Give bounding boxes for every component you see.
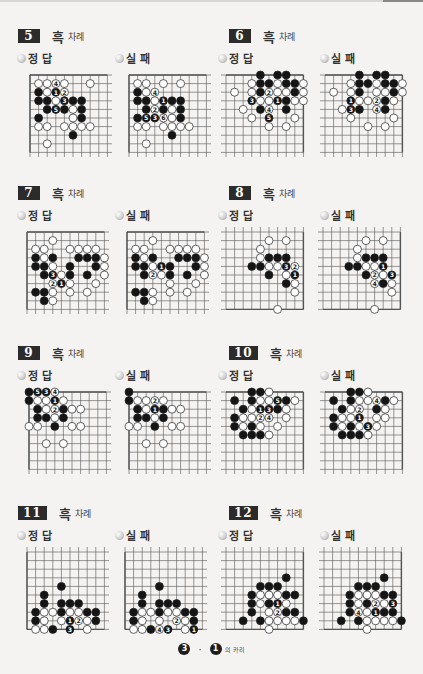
black-stone xyxy=(83,254,91,262)
white-stone xyxy=(373,88,381,96)
black-stone xyxy=(355,71,363,79)
black-stone: 3 xyxy=(151,114,159,122)
black-stone xyxy=(166,271,174,279)
white-stone xyxy=(134,80,142,88)
black-stone xyxy=(147,625,155,633)
correct-label: 정 답 xyxy=(218,207,253,223)
problem-6: 6 흑 차례 정 답 실 패 23145 1234 xyxy=(211,28,416,178)
white-stone xyxy=(83,625,91,633)
failure-label: 실 패 xyxy=(115,207,150,223)
svg-text:2: 2 xyxy=(76,617,80,624)
bullet-icon xyxy=(17,211,26,220)
white-stone xyxy=(140,254,148,262)
svg-text:3: 3 xyxy=(390,271,394,278)
black-stone xyxy=(346,591,354,599)
problem-header: 10 흑 차례 xyxy=(229,345,302,361)
svg-text:1: 1 xyxy=(349,97,353,104)
black-stone: 3 xyxy=(389,600,397,608)
black-stone xyxy=(239,431,247,439)
white-stone xyxy=(49,608,57,616)
svg-text:6: 6 xyxy=(161,114,165,121)
black-stone xyxy=(291,608,299,616)
svg-text:1: 1 xyxy=(68,617,72,624)
white-stone xyxy=(149,262,157,270)
black-stone xyxy=(132,262,140,270)
problem-header: 12 흑 차례 xyxy=(229,505,302,521)
black-stone xyxy=(140,297,148,305)
go-board-failure: 21 xyxy=(124,387,211,474)
failure-label: 실 패 xyxy=(320,50,355,66)
black-stone-icon: 3 xyxy=(178,643,190,655)
black-stone xyxy=(83,271,91,279)
white-stone xyxy=(389,617,397,625)
white-stone xyxy=(362,262,370,270)
white-stone: 4 xyxy=(354,608,362,616)
black-stone xyxy=(42,414,50,422)
white-stone xyxy=(373,414,381,422)
white-stone: 2 xyxy=(372,600,380,608)
white-stone xyxy=(177,405,185,413)
black-stone xyxy=(49,625,57,633)
white-stone xyxy=(371,305,379,313)
white-stone xyxy=(248,414,256,422)
white-stone xyxy=(175,245,183,253)
svg-text:1: 1 xyxy=(357,414,361,421)
white-stone xyxy=(248,80,256,88)
black-stone xyxy=(389,608,397,616)
black-stone xyxy=(183,271,191,279)
turn-label-sub: 차례 xyxy=(68,347,84,360)
go-board-correct: 321 xyxy=(221,227,308,314)
black-stone xyxy=(25,397,33,405)
white-stone: 2 xyxy=(151,397,159,405)
black-stone xyxy=(192,254,200,262)
problem-9: 9 흑 차례 정 답 실 패 53412 21 xyxy=(0,345,205,495)
white-stone xyxy=(265,262,273,270)
white-stone xyxy=(265,123,273,131)
white-stone xyxy=(372,591,380,599)
white-stone xyxy=(282,414,290,422)
page-top-rule-accent xyxy=(383,0,423,2)
black-stone xyxy=(32,254,40,262)
black-stone xyxy=(138,600,146,608)
page-top-rule xyxy=(0,0,423,2)
svg-text:5: 5 xyxy=(275,397,279,404)
white-stone xyxy=(168,105,176,113)
white-stone xyxy=(157,271,165,279)
black-stone xyxy=(132,288,140,296)
svg-text:2: 2 xyxy=(372,271,376,278)
black-stone xyxy=(347,397,355,405)
black-stone xyxy=(256,431,264,439)
problem-7: 7 흑 차례 정 답 실 패 321 12 xyxy=(0,185,205,335)
black-stone xyxy=(155,600,163,608)
svg-text:1: 1 xyxy=(373,609,377,616)
go-board-failure: 4213 xyxy=(320,387,407,474)
separator-dot: · xyxy=(198,644,201,655)
turn-label-black: 흑 xyxy=(263,27,275,46)
white-stone xyxy=(40,625,48,633)
white-stone xyxy=(77,422,85,430)
white-stone xyxy=(69,114,77,122)
black-stone xyxy=(138,591,146,599)
black-stone xyxy=(83,608,91,616)
page-footer: 3 · 1 의 카리 xyxy=(0,643,423,655)
svg-text:3: 3 xyxy=(44,388,48,395)
white-stone xyxy=(347,80,355,88)
black-stone xyxy=(347,431,355,439)
white-stone xyxy=(83,288,91,296)
white-stone: 6 xyxy=(159,114,167,122)
white-stone xyxy=(40,617,48,625)
black-stone xyxy=(159,105,167,113)
black-stone xyxy=(381,97,389,105)
white-stone: 2 xyxy=(371,271,379,279)
go-board-failure: 12 xyxy=(122,227,209,314)
white-stone xyxy=(149,237,157,245)
white-stone xyxy=(166,288,174,296)
white-stone xyxy=(66,288,74,296)
black-stone xyxy=(338,431,346,439)
white-stone xyxy=(66,280,74,288)
black-stone xyxy=(390,88,398,96)
white-stone xyxy=(59,440,67,448)
black-stone xyxy=(140,288,148,296)
white-stone xyxy=(164,608,172,616)
white-stone xyxy=(35,123,43,131)
